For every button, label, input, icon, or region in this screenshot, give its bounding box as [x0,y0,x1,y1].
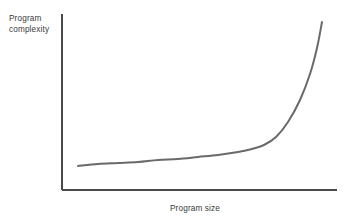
x-axis-label: Program size [130,203,260,214]
chart-figure: Program complexity Program size [0,0,349,218]
complexity-growth-curve [78,22,322,166]
y-axis-label: Program complexity [9,13,57,35]
